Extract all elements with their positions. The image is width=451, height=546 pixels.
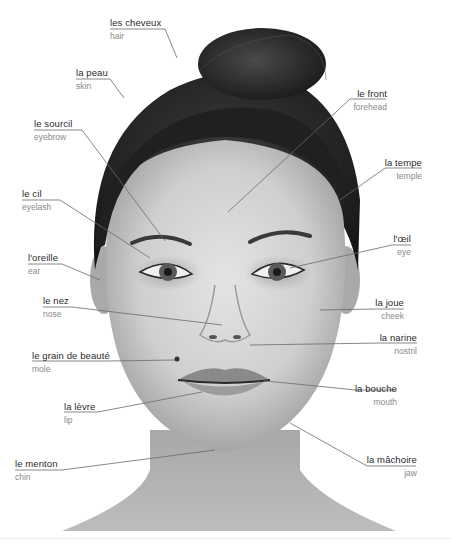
label-english: eyelash xyxy=(22,203,51,212)
label-english: lip xyxy=(64,416,95,425)
label-cheek: la joue cheek xyxy=(375,298,404,320)
label-english: chin xyxy=(15,473,58,482)
label-french: la bouche xyxy=(355,384,397,394)
label-english: nostril xyxy=(380,347,417,356)
face-diagram: les cheveux hair la peau skin le front f… xyxy=(0,0,451,546)
label-english: skin xyxy=(76,82,108,91)
label-eye: l'œil eye xyxy=(393,234,411,256)
label-french: la mâchoire xyxy=(367,455,417,465)
label-english: cheek xyxy=(375,312,404,321)
label-hair: les cheveux hair xyxy=(110,18,161,40)
label-english: mole xyxy=(32,365,110,374)
page-bottom-edge xyxy=(0,538,451,546)
label-french: l'œil xyxy=(393,234,411,244)
label-french: la narine xyxy=(380,333,417,343)
label-french: le front xyxy=(353,89,387,99)
label-english: eyebrow xyxy=(34,133,73,142)
label-forehead: le front forehead xyxy=(353,89,387,111)
label-english: eye xyxy=(393,248,411,257)
label-mouth: la bouche mouth xyxy=(355,384,397,406)
label-french: l'oreille xyxy=(28,253,58,263)
label-english: forehead xyxy=(353,103,387,112)
label-english: temple xyxy=(385,172,422,181)
label-english: nose xyxy=(43,310,69,319)
label-chin: le menton chin xyxy=(15,459,58,481)
label-french: le grain de beauté xyxy=(32,351,110,361)
label-french: les cheveux xyxy=(110,18,161,28)
label-french: le menton xyxy=(15,459,58,469)
label-english: jaw xyxy=(367,469,417,478)
label-nose: le nez nose xyxy=(43,296,69,318)
label-mole: le grain de beauté mole xyxy=(32,351,110,373)
label-french: le sourcil xyxy=(34,119,73,129)
label-skin: la peau skin xyxy=(76,68,108,90)
label-french: la joue xyxy=(375,298,404,308)
label-jaw: la mâchoire jaw xyxy=(367,455,417,477)
label-french: la lèvre xyxy=(64,402,95,412)
label-english: ear xyxy=(28,267,58,276)
label-eyelash: le cil eyelash xyxy=(22,189,51,211)
label-english: hair xyxy=(110,32,161,41)
label-french: le cil xyxy=(22,189,51,199)
label-french: le nez xyxy=(43,296,69,306)
label-nostril: la narine nostril xyxy=(380,333,417,355)
label-ear: l'oreille ear xyxy=(28,253,58,275)
label-lip: la lèvre lip xyxy=(64,402,95,424)
label-temple: la tempe temple xyxy=(385,158,422,180)
label-french: la tempe xyxy=(385,158,422,168)
label-eyebrow: le sourcil eyebrow xyxy=(34,119,73,141)
label-french: la peau xyxy=(76,68,108,78)
label-english: mouth xyxy=(355,398,397,407)
